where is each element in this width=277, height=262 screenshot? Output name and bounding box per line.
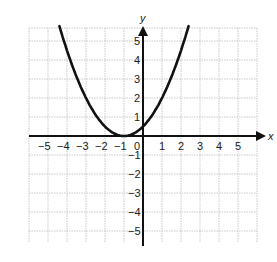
x-tick-label: 1: [159, 140, 165, 152]
x-tick-label: −5: [38, 140, 51, 152]
y-tick-label: 1: [134, 111, 140, 123]
y-tick-label: −5: [128, 225, 141, 237]
y-tick-label: −3: [128, 187, 141, 199]
x-tick-label: −2: [95, 140, 108, 152]
x-tick-label: 4: [216, 140, 222, 152]
y-tick-label: −1: [128, 149, 141, 161]
x-tick-label: 5: [235, 140, 241, 152]
y-tick-label: 4: [134, 54, 140, 66]
y-tick-label: −4: [128, 206, 141, 218]
x-tick-label: −3: [76, 140, 89, 152]
x-axis-arrow-icon: [256, 131, 266, 141]
x-tick-label: 2: [178, 140, 184, 152]
y-tick-label: 3: [134, 73, 140, 85]
x-tick-label: −4: [57, 140, 70, 152]
x-tick-label: −1: [114, 140, 127, 152]
y-tick-label: −2: [128, 168, 141, 180]
x-axis-label: x: [267, 130, 274, 142]
coordinate-plane: x y −5−4−3−2−101234554321−1−2−3−4−5: [0, 0, 277, 262]
x-tick-label: 3: [197, 140, 203, 152]
y-tick-label: 2: [134, 92, 140, 104]
y-axis-label: y: [139, 12, 147, 24]
y-tick-label: 5: [134, 35, 140, 47]
